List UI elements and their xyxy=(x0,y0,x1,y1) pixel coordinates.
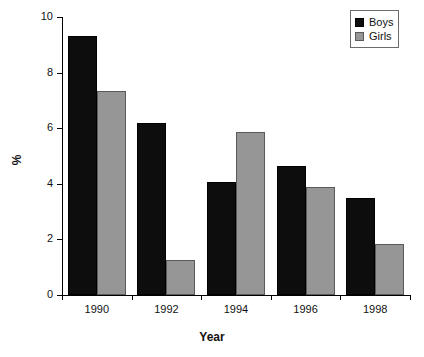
bar-group xyxy=(207,17,265,295)
x-tick-mark xyxy=(410,295,411,300)
x-tick-label-1990: 1990 xyxy=(62,303,132,316)
bar-girls-1994[interactable] xyxy=(236,132,265,295)
legend-label-boys: Boys xyxy=(369,16,393,29)
bar-group xyxy=(346,17,404,295)
bar-girls-1992[interactable] xyxy=(166,260,195,295)
y-tick-label: 2 xyxy=(47,232,53,245)
y-tick-mark xyxy=(57,239,62,240)
bar-group xyxy=(137,17,195,295)
legend-item-boys[interactable]: Boys xyxy=(355,15,393,29)
legend-label-girls: Girls xyxy=(369,30,392,43)
x-tick-mark xyxy=(340,295,341,300)
black-square-swatch-icon xyxy=(355,18,364,27)
bar-girls-1996[interactable] xyxy=(306,187,335,295)
bar-boys-1998[interactable] xyxy=(346,198,375,295)
bar-group xyxy=(277,17,335,295)
x-tick-label-1998: 1998 xyxy=(340,303,410,316)
x-tick-mark xyxy=(201,295,202,300)
y-tick-mark xyxy=(57,184,62,185)
bar-boys-1994[interactable] xyxy=(207,182,236,295)
legend-item-girls[interactable]: Girls xyxy=(355,29,393,43)
chart-legend: Boys Girls xyxy=(350,10,399,48)
y-tick-label: 0 xyxy=(47,288,53,301)
bar-boys-1990[interactable] xyxy=(68,36,97,295)
y-tick-label: 10 xyxy=(41,10,53,23)
x-tick-mark xyxy=(132,295,133,300)
x-tick-mark xyxy=(271,295,272,300)
x-tick-label-1994: 1994 xyxy=(201,303,271,316)
y-tick-label: 8 xyxy=(47,66,53,79)
y-axis-label: % xyxy=(0,145,37,175)
bar-chart: % 0246810 19901992199419961998 Year Boys… xyxy=(0,0,424,357)
plot-area: 0246810 xyxy=(62,17,410,295)
bar-boys-1992[interactable] xyxy=(137,123,166,295)
y-tick-mark xyxy=(57,128,62,129)
y-tick-mark xyxy=(57,17,62,18)
bar-girls-1990[interactable] xyxy=(97,91,126,295)
y-tick-label: 6 xyxy=(47,121,53,134)
bar-group xyxy=(68,17,126,295)
x-tick-label-1996: 1996 xyxy=(271,303,341,316)
x-tick-label-1992: 1992 xyxy=(132,303,202,316)
y-tick-label: 4 xyxy=(47,177,53,190)
x-axis-label: Year xyxy=(0,330,424,344)
bar-boys-1996[interactable] xyxy=(277,166,306,295)
bar-girls-1998[interactable] xyxy=(375,244,404,295)
y-tick-mark xyxy=(57,73,62,74)
gray-square-swatch-icon xyxy=(355,32,364,41)
x-tick-mark xyxy=(62,295,63,300)
x-axis-line xyxy=(62,295,411,296)
